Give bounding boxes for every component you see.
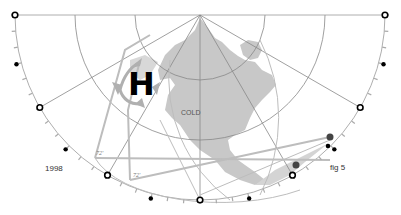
open-marker [382, 12, 388, 18]
open-marker [37, 105, 43, 111]
figure-label: fig 5 [330, 163, 345, 172]
filled-marker [247, 196, 251, 200]
tick-mark [342, 134, 345, 137]
angle-label-2: 72' [133, 172, 140, 178]
open-marker [357, 105, 363, 111]
station-dot [327, 134, 334, 141]
year-label: 1998 [45, 164, 63, 173]
open-marker [290, 172, 296, 178]
filled-marker [381, 62, 385, 66]
tick-mark [79, 157, 82, 160]
filled-marker [149, 196, 153, 200]
open-marker [105, 172, 111, 178]
tick-mark [92, 167, 94, 170]
tick-mark [278, 183, 280, 187]
tick-mark [120, 183, 122, 187]
open-marker [197, 197, 203, 203]
tick-mark [306, 167, 308, 170]
polar-diagram: H COLD 1998 fig 5 72' 72' [0, 0, 401, 215]
high-pressure-label: H [128, 68, 155, 100]
tick-mark [29, 93, 33, 95]
filled-marker [332, 147, 336, 151]
tick-mark [374, 78, 378, 79]
tick-mark [55, 134, 58, 137]
radial-spokes [40, 15, 360, 200]
tick-mark [14, 47, 18, 48]
tick-mark [167, 197, 168, 201]
angle-label-1: 72' [96, 150, 103, 156]
tick-mark [368, 93, 372, 95]
tick-mark [263, 189, 264, 193]
region-label: COLD [181, 109, 200, 116]
filled-marker [14, 62, 18, 66]
filled-marker [63, 147, 67, 151]
tick-mark [232, 197, 233, 201]
tick-mark [45, 121, 48, 123]
tick-mark [352, 121, 355, 123]
tick-mark [135, 189, 136, 193]
open-marker [12, 12, 18, 18]
station-dot-small [326, 144, 331, 149]
diagram-canvas [0, 0, 401, 215]
station-dot [293, 162, 300, 169]
tick-mark [382, 47, 386, 48]
tick-mark [22, 78, 26, 79]
